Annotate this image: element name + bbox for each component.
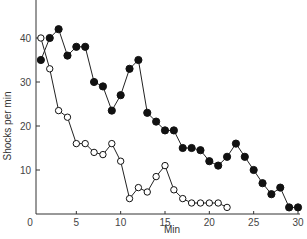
- open-series-line: [41, 38, 227, 207]
- open-data-point: [117, 158, 123, 164]
- open-data-point: [73, 140, 79, 146]
- filled-data-point: [64, 52, 71, 59]
- y-axis-label: Shocks per min: [2, 92, 13, 161]
- open-data-point: [180, 195, 186, 201]
- y-tick-label: 40: [20, 33, 32, 44]
- open-data-point: [47, 66, 53, 72]
- x-tick-label: 5: [74, 217, 80, 228]
- x-tick-label: 0: [27, 217, 33, 228]
- open-data-point: [171, 187, 177, 193]
- filled-data-point: [286, 204, 293, 211]
- open-data-point: [64, 114, 70, 120]
- x-tick-label: 20: [204, 217, 216, 228]
- x-axis-label: Min: [164, 224, 180, 235]
- open-data-point: [126, 195, 132, 201]
- open-data-point: [109, 140, 115, 146]
- open-data-point: [188, 200, 194, 206]
- filled-data-point: [277, 184, 284, 191]
- filled-data-point: [153, 118, 160, 125]
- open-data-point: [55, 107, 61, 113]
- filled-data-point: [117, 92, 124, 99]
- y-tick-label: 30: [20, 77, 32, 88]
- open-data-point: [100, 151, 106, 157]
- filled-data-point: [46, 34, 53, 41]
- open-data-point: [197, 200, 203, 206]
- filled-data-point: [223, 153, 230, 160]
- filled-data-point: [259, 180, 266, 187]
- open-data-point: [224, 204, 230, 210]
- x-tick-label: 30: [292, 217, 304, 228]
- filled-data-point: [294, 204, 301, 211]
- filled-data-point: [188, 144, 195, 151]
- filled-data-point: [161, 127, 168, 134]
- series-group: [37, 26, 301, 211]
- open-data-point: [82, 140, 88, 146]
- filled-data-point: [37, 56, 44, 63]
- y-tick-label: 10: [20, 165, 32, 176]
- x-tick-label: 25: [248, 217, 260, 228]
- filled-data-point: [170, 127, 177, 134]
- open-data-point: [215, 200, 221, 206]
- filled-data-point: [135, 56, 142, 63]
- y-tick-label: 20: [20, 121, 32, 132]
- x-tick-label: 10: [115, 217, 127, 228]
- filled-data-point: [206, 158, 213, 165]
- filled-data-point: [126, 65, 133, 72]
- filled-data-point: [55, 26, 62, 33]
- line-chart: 10203040 051015202530 Min Shocks per min: [0, 0, 307, 239]
- open-data-point: [144, 189, 150, 195]
- filled-data-point: [241, 153, 248, 160]
- filled-data-point: [82, 43, 89, 50]
- y-ticks: 10203040: [20, 33, 40, 176]
- filled-data-point: [179, 144, 186, 151]
- filled-data-point: [73, 43, 80, 50]
- open-data-point: [153, 173, 159, 179]
- filled-data-point: [108, 107, 115, 114]
- filled-data-point: [250, 166, 257, 173]
- open-data-point: [91, 149, 97, 155]
- open-data-point: [135, 184, 141, 190]
- filled-data-point: [268, 191, 275, 198]
- filled-data-point: [144, 109, 151, 116]
- filled-data-point: [197, 147, 204, 154]
- open-data-point: [162, 162, 168, 168]
- open-data-point: [38, 35, 44, 41]
- filled-data-point: [232, 140, 239, 147]
- filled-data-point: [99, 83, 106, 90]
- filled-data-point: [215, 162, 222, 169]
- filled-data-point: [90, 78, 97, 85]
- open-data-point: [206, 200, 212, 206]
